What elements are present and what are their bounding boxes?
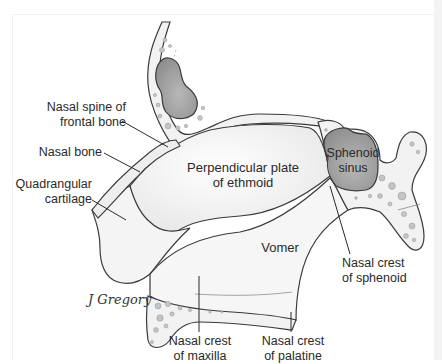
label-line: of maxilla xyxy=(164,349,236,364)
label-line: Nasal crest xyxy=(256,334,330,349)
label-nasal-crest-sphenoid: Nasal crest of sphenoid xyxy=(342,256,422,286)
label-line: of ethmoid xyxy=(178,175,308,190)
label-line: of sphenoid xyxy=(342,271,422,286)
label-line: Nasal crest xyxy=(164,334,236,349)
label-nasal-crest-palatine: Nasal crest of palatine xyxy=(256,334,330,364)
label-line: of palatine xyxy=(256,349,330,364)
label-nasal-spine-frontal: Nasal spine of frontal bone xyxy=(28,100,126,130)
label-nasal-crest-maxilla: Nasal crest of maxilla xyxy=(164,334,236,364)
artist-signature: J Gregory xyxy=(88,292,151,307)
label-line: cartilage xyxy=(14,192,92,207)
label-line: Sphenoid xyxy=(322,146,384,161)
label-line: frontal bone xyxy=(28,115,126,130)
label-nasal-bone: Nasal bone xyxy=(28,145,102,160)
label-line: Quadrangular xyxy=(14,177,92,192)
label-sphenoid-sinus: Sphenoid sinus xyxy=(322,146,384,176)
label-line: sinus xyxy=(322,161,384,176)
label-quadrangular-cartilage: Quadrangular cartilage xyxy=(14,177,92,207)
label-vomer: Vomer xyxy=(250,240,310,255)
label-perpendicular-plate: Perpendicular plate of ethmoid xyxy=(178,160,308,190)
label-line: Perpendicular plate xyxy=(178,160,308,175)
label-line: Nasal spine of xyxy=(28,100,126,115)
label-line: Nasal crest xyxy=(342,256,422,271)
